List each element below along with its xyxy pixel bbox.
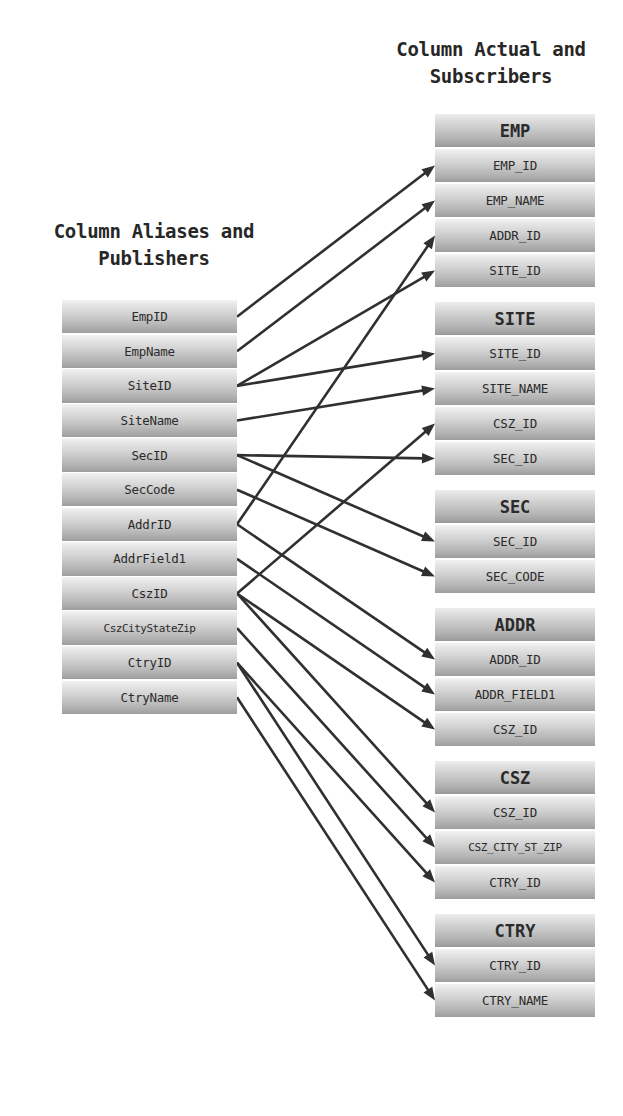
field-box: SITE_ID: [435, 254, 595, 287]
table-header-box: ADDR: [435, 608, 595, 641]
field-box: CTRY_NAME: [435, 984, 595, 1017]
field-box: CTRY_ID: [435, 949, 595, 982]
field-box: EMP_ID: [435, 149, 595, 182]
arrow-head: [422, 834, 435, 847]
field-box: EMP_NAME: [435, 184, 595, 217]
diagram-canvas: Column Actual and Subscribers Column Ali…: [0, 0, 623, 1116]
arrow-head: [424, 952, 435, 966]
arrow-head: [423, 236, 435, 250]
arrow-head: [422, 166, 435, 178]
table-header-box: SITE: [435, 302, 595, 335]
alias-box: AddrID: [62, 508, 237, 541]
field-box: ADDR_ID: [435, 219, 595, 252]
connection-line: [237, 697, 430, 992]
field-box: CTRY_ID: [435, 866, 595, 899]
connection-line: [237, 594, 427, 724]
alias-box: CszCityStateZip: [62, 611, 237, 644]
field-box: SEC_ID: [435, 442, 595, 475]
connection-line: [237, 430, 427, 593]
connection-line: [237, 455, 426, 537]
right-column-title: Column Actual and Subscribers: [366, 36, 616, 90]
arrow-head: [421, 567, 435, 577]
alias-box: SiteName: [62, 404, 237, 437]
table-header-box: CSZ: [435, 761, 595, 794]
connection-line: [237, 663, 430, 957]
connection-line: [237, 244, 429, 525]
alias-box: CtryName: [62, 681, 237, 714]
connection-line: [237, 559, 427, 689]
arrow-head: [421, 350, 435, 360]
connection-line: [237, 663, 428, 875]
arrow-head: [421, 683, 435, 695]
connection-line: [237, 594, 428, 806]
connection-line: [237, 390, 425, 420]
connection-line: [237, 524, 427, 654]
alias-box: CtryID: [62, 646, 237, 679]
connection-line: [237, 628, 428, 840]
arrow-head: [424, 987, 435, 1001]
field-box: CSZ_ID: [435, 713, 595, 746]
arrow-head: [422, 453, 435, 463]
connection-line: [237, 355, 425, 386]
arrow-head: [421, 385, 435, 395]
field-box: CSZ_CITY_ST_ZIP: [435, 831, 595, 864]
arrow-head: [422, 424, 435, 436]
table-header-box: CTRY: [435, 914, 595, 947]
alias-box: AddrField1: [62, 542, 237, 575]
arrow-head: [421, 532, 435, 542]
arrow-head: [421, 648, 435, 660]
field-box: ADDR_ID: [435, 643, 595, 676]
field-box: SITE_NAME: [435, 372, 595, 405]
alias-box: SiteID: [62, 369, 237, 402]
field-box: CSZ_ID: [435, 407, 595, 440]
alias-box: CszID: [62, 577, 237, 610]
arrow-head: [421, 271, 435, 282]
table-header-box: SEC: [435, 490, 595, 523]
connection-line: [237, 455, 425, 458]
field-box: ADDR_FIELD1: [435, 678, 595, 711]
alias-box: EmpName: [62, 335, 237, 368]
table-header-box: EMP: [435, 114, 595, 147]
left-column-title: Column Aliases and Publishers: [14, 218, 294, 272]
connection-line: [237, 276, 426, 386]
field-box: CSZ_ID: [435, 796, 595, 829]
field-box: SITE_ID: [435, 337, 595, 370]
alias-box: EmpID: [62, 300, 237, 333]
arrow-head: [422, 799, 435, 812]
connection-line: [237, 490, 426, 573]
arrow-head: [422, 201, 435, 213]
alias-box: SecID: [62, 438, 237, 471]
arrow-head: [421, 718, 435, 730]
field-box: SEC_ID: [435, 525, 595, 558]
alias-box: SecCode: [62, 473, 237, 506]
arrow-head: [422, 869, 435, 882]
field-box: SEC_CODE: [435, 560, 595, 593]
